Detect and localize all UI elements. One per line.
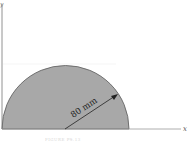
- x-axis-label: x: [183, 125, 187, 133]
- y-axis-label: y: [0, 0, 4, 8]
- semicircle-diagram: 80 mm x y: [0, 0, 195, 145]
- semicircle-area: [2, 66, 129, 130]
- figure-caption: FIGURE P9.13: [45, 137, 150, 141]
